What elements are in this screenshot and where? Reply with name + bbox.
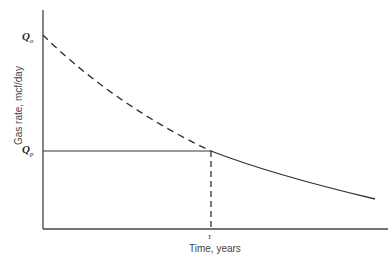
extrapolated-decline-curve	[43, 35, 211, 151]
decline-curve	[211, 151, 375, 199]
q-plateau-label: Qp	[22, 143, 33, 158]
tau-label: τ	[208, 231, 211, 241]
x-axis-label: Time, years	[189, 243, 241, 254]
rate-time-diagram	[0, 0, 391, 258]
q-initial-label: Qo	[22, 30, 33, 45]
y-axis-label: Gas rate, mcf/day	[13, 66, 24, 145]
